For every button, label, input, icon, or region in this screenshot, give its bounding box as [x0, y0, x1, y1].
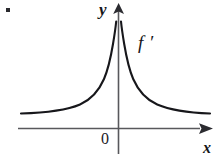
math-figure: y x f ′ 0	[0, 0, 218, 157]
x-axis-label: x	[203, 140, 211, 156]
graph-canvas	[0, 0, 218, 157]
curve-label-f-prime: f ′	[138, 33, 154, 52]
y-axis-label: y	[99, 1, 107, 18]
x-axis-arrowhead	[199, 123, 213, 134]
origin-label: 0	[101, 131, 109, 147]
curve-right-branch	[121, 22, 210, 114]
curve-left-branch	[21, 22, 116, 114]
